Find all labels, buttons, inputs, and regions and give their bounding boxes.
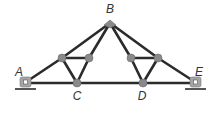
joint-I — [154, 54, 162, 62]
member-F-C — [62, 58, 77, 83]
member-H-B — [110, 23, 131, 58]
joint-C — [73, 79, 81, 87]
label-E: E — [195, 66, 203, 78]
member-G-B — [89, 23, 110, 58]
support-E-ground — [185, 88, 206, 90]
member-B-I — [110, 23, 158, 58]
label-A: A — [15, 66, 23, 78]
member-I-E — [158, 58, 195, 82]
member-I-D — [143, 58, 158, 83]
truss-members — [26, 23, 195, 83]
joint-F — [58, 54, 66, 62]
joint-G — [85, 54, 93, 62]
support-E-pin — [194, 80, 198, 84]
member-F-B — [62, 23, 110, 58]
label-B: B — [106, 3, 114, 15]
support-A-ground — [15, 88, 36, 90]
member-A-F — [26, 58, 62, 82]
label-D: D — [138, 90, 147, 102]
joint-D — [139, 79, 147, 87]
joint-H — [127, 54, 135, 62]
truss-diagram — [0, 0, 218, 114]
support-A-pin — [24, 80, 28, 84]
label-C: C — [73, 90, 82, 102]
